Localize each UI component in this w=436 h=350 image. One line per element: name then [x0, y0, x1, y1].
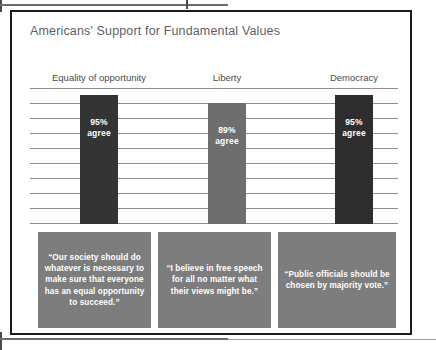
- page-tick-mark: [186, 0, 188, 9]
- page-rule-bottom: [0, 338, 228, 340]
- quote-box-democracy: “Public officials should be chosen by ma…: [278, 232, 396, 328]
- plot-area: 95% agree 89% agree 95% agree: [30, 88, 398, 224]
- figure-frame: Americans' Support for Fundamental Value…: [10, 10, 412, 335]
- bar-liberty[interactable]: 89% agree: [208, 103, 246, 224]
- quote-text: “Our society should do whatever is neces…: [43, 252, 146, 308]
- quote-box-liberty: “I believe in free speech for all no mat…: [158, 232, 271, 328]
- page-spine-top-mark: [0, 0, 2, 12]
- category-label-row: Equality of opportunity Liberty Democrac…: [30, 72, 398, 88]
- quote-text: “Public officials should be chosen by ma…: [283, 269, 391, 291]
- bar-value-label: 95% agree: [342, 117, 366, 139]
- quote-text: “I believe in free speech for all no mat…: [163, 263, 266, 297]
- bar-value-word: agree: [342, 128, 366, 138]
- quote-boxes-row: “Our society should do whatever is neces…: [30, 232, 398, 328]
- page-rule-bottom-extension: [228, 339, 436, 340]
- bar-value-label: 89% agree: [215, 125, 239, 147]
- bar-equality-of-opportunity[interactable]: 95% agree: [80, 95, 118, 224]
- chart-title: Americans' Support for Fundamental Value…: [30, 24, 280, 38]
- bars-layer: 95% agree 89% agree 95% agree: [30, 88, 398, 224]
- page-rule-top: [0, 4, 228, 6]
- bar-democracy[interactable]: 95% agree: [335, 95, 373, 224]
- bar-value-label: 95% agree: [87, 117, 111, 139]
- quote-box-equality-of-opportunity: “Our society should do whatever is neces…: [38, 232, 151, 328]
- bar-value-word: agree: [215, 136, 239, 146]
- category-label-liberty: Liberty: [213, 72, 242, 83]
- bar-value-word: agree: [87, 128, 111, 138]
- bar-value-percent: 95%: [345, 117, 363, 127]
- bar-value-percent: 95%: [90, 117, 108, 127]
- category-label-equality-of-opportunity: Equality of opportunity: [52, 72, 146, 83]
- bar-value-percent: 89%: [218, 125, 236, 135]
- page-spine-bottom-mark: [0, 332, 2, 350]
- category-label-democracy: Democracy: [330, 72, 378, 83]
